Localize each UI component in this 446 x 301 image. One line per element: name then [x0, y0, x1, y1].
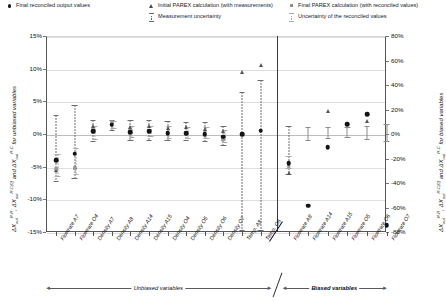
final-reconciled-marker [345, 122, 350, 127]
initial-parex-marker [326, 109, 330, 113]
y-axis-right-tick-label: -40% [391, 179, 405, 186]
gridline [47, 135, 385, 136]
measurement-uncertainty-bar [260, 80, 261, 230]
gridline [47, 102, 385, 103]
final-parex-marker [54, 167, 58, 171]
legend-triangle-icon [148, 2, 155, 9]
initial-parex-marker [147, 124, 151, 128]
initial-parex-marker [240, 70, 244, 74]
y-axis-left-tick [43, 69, 46, 70]
legend-item-final-reconciled-output-values: Final reconciled output values [6, 2, 90, 9]
final-parex-marker [73, 166, 77, 170]
legend-item-initial-parex-calculation: Initial PAREX calculation (with measurem… [148, 2, 273, 9]
legend-measurement-errorbar-icon [148, 13, 155, 20]
final-reconciled-marker [258, 128, 263, 133]
y-axis-left-tick [43, 199, 46, 200]
gridline [47, 70, 385, 71]
x-axis-tick [223, 232, 224, 236]
final-reconciled-marker [384, 223, 389, 228]
y-axis-right-tick [386, 208, 389, 209]
y-axis-right-tick [386, 183, 389, 184]
reconciled-uncertainty-bar [347, 127, 348, 137]
legend-label: Uncertainty of the reconciled values [298, 13, 387, 20]
initial-parex-marker [166, 126, 170, 130]
y-axis-right-tick-label: 60% [391, 57, 403, 64]
legend-label: Measurement uncertainty [158, 13, 221, 20]
x-axis-tick [347, 232, 348, 236]
group-divider [277, 36, 278, 232]
legend-item-final-parex-calculation: Final PAREX calculation (with reconciled… [288, 2, 418, 9]
x-axis-tick [56, 232, 57, 236]
unbiased-variables-arrow: ◄ [45, 285, 51, 291]
final-reconciled-marker [184, 131, 189, 136]
x-axis-tick [308, 232, 309, 236]
final-reconciled-marker [147, 129, 152, 134]
y-axis-right-tick-label: -20% [391, 155, 405, 162]
chart-legend: Final reconciled output values Initial P… [0, 0, 442, 26]
y-axis-right-tick-label: 20% [391, 106, 403, 113]
y-axis-left-tick [43, 167, 46, 168]
y-axis-left-tick-label: 15% [18, 32, 42, 39]
unbiased-variables-label: Unbiased variables [132, 285, 185, 291]
y-axis-right-tick [386, 36, 389, 37]
measurement-uncertainty-bar [242, 92, 243, 231]
final-reconciled-marker [240, 132, 245, 137]
x-axis-tick [261, 232, 262, 236]
initial-parex-marker [128, 125, 132, 129]
legend-label: Final reconciled output values [16, 2, 90, 9]
initial-parex-marker [184, 125, 188, 129]
final-reconciled-marker [110, 123, 115, 128]
plot-area [46, 36, 386, 232]
y-axis-left-tick-label: -10% [18, 195, 42, 202]
x-axis-tick [168, 232, 169, 236]
y-axis-right-tick-label: 40% [391, 81, 403, 88]
y-axis-left-tick-label: -15% [18, 228, 42, 235]
initial-parex-marker [203, 127, 207, 131]
final-reconciled-marker [221, 134, 226, 139]
final-reconciled-marker [286, 161, 291, 166]
biased-variables-arrow: ◄ [282, 285, 288, 291]
x-axis-tick [130, 232, 131, 236]
initial-parex-marker [287, 171, 291, 175]
initial-parex-marker [365, 119, 369, 123]
x-axis-tick [112, 232, 113, 236]
y-axis-left-tick-label: -5% [18, 163, 42, 170]
x-axis-tick [387, 232, 388, 236]
y-axis-right-tick [386, 61, 389, 62]
final-reconciled-marker [54, 158, 59, 163]
legend-square-icon [288, 2, 295, 9]
y-axis-left-tick [43, 134, 46, 135]
legend-dot-icon [6, 2, 13, 9]
x-axis-tick [367, 232, 368, 236]
y-axis-left-tick [43, 232, 46, 233]
initial-parex-marker [221, 129, 225, 133]
x-axis-tick [328, 232, 329, 236]
y-axis-right-tick-label: 80% [391, 32, 403, 39]
y-axis-left-tick-label: 10% [18, 65, 42, 72]
y-axis-left-title: ΔXoutR-R, ΔXoutR-C(0) and ΔXoutR-C for u… [9, 86, 19, 232]
y-axis-left-tick [43, 101, 46, 102]
unbiased-variables-arrow: ► [267, 285, 273, 291]
x-axis-tick [75, 232, 76, 236]
reconciled-uncertainty-bar [327, 127, 328, 139]
reconciled-uncertainty-bar [367, 126, 368, 140]
gridline [47, 200, 385, 201]
y-axis-left-tick [43, 36, 46, 37]
final-reconciled-marker [165, 131, 170, 136]
final-reconciled-marker [128, 130, 133, 135]
y-axis-right-tick [386, 85, 389, 86]
x-axis-tick [205, 232, 206, 236]
y-axis-left-tick-label: 5% [18, 97, 42, 104]
x-axis-tick [242, 232, 243, 236]
final-reconciled-marker [365, 112, 370, 117]
final-reconciled-marker [203, 132, 208, 137]
legend-label: Initial PAREX calculation (with measurem… [158, 2, 273, 9]
final-reconciled-marker [326, 145, 331, 150]
legend-label: Final PAREX calculation (with reconciled… [298, 2, 418, 9]
y-axis-right-title: ΔXoutR-R, ΔXoutR-C(0) and ΔXoutR-C for b… [436, 93, 446, 232]
final-reconciled-marker [306, 204, 311, 209]
reconciled-uncertainty-bar [308, 127, 309, 140]
x-axis-tick [149, 232, 150, 236]
legend-reconciled-errorbar-icon [288, 13, 295, 20]
